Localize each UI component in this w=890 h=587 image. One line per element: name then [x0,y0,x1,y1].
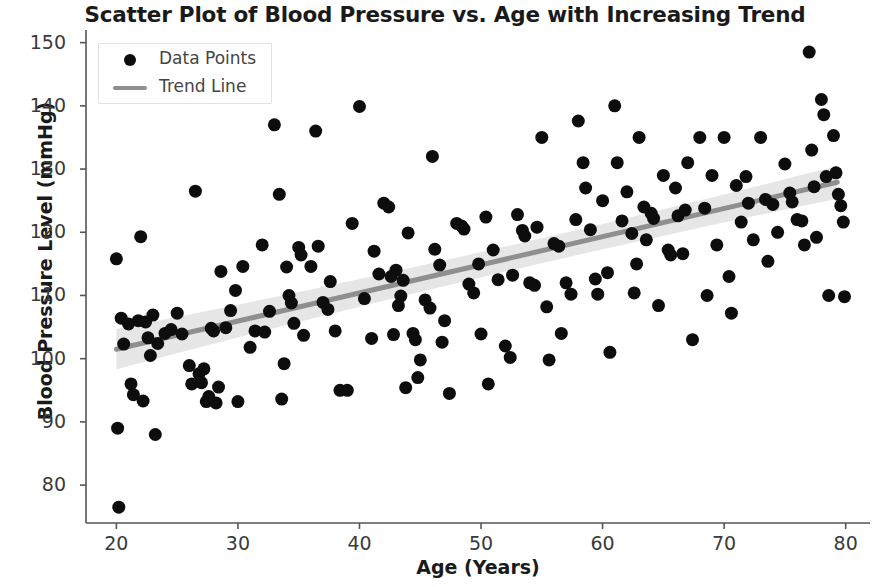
y-tick-110: 110 [6,283,66,305]
legend-label-data-points: Data Points [159,48,256,68]
x-tick-70: 70 [694,532,754,554]
legend-marker-line-icon [113,86,147,90]
legend-entry-data-points: Data Points [99,45,271,74]
x-tick-30: 30 [208,532,268,554]
y-tick-120: 120 [6,220,66,242]
legend-marker-dot-icon [124,54,136,66]
y-tick-130: 130 [6,157,66,179]
scatter-points [110,46,851,514]
x-tick-40: 40 [329,532,389,554]
figure-canvas: Scatter Plot of Blood Pressure vs. Age w… [0,0,890,587]
legend-entry-trend-line: Trend Line [99,73,271,102]
y-tick-90: 90 [6,410,66,432]
x-tick-60: 60 [573,532,633,554]
x-tick-80: 80 [816,532,876,554]
x-tick-20: 20 [86,532,146,554]
x-tick-50: 50 [451,532,511,554]
y-tick-80: 80 [6,473,66,495]
legend-label-trend-line: Trend Line [159,76,246,96]
legend: Data Points Trend Line [98,43,272,104]
y-tick-140: 140 [6,94,66,116]
y-tick-150: 150 [6,31,66,53]
y-tick-100: 100 [6,347,66,369]
